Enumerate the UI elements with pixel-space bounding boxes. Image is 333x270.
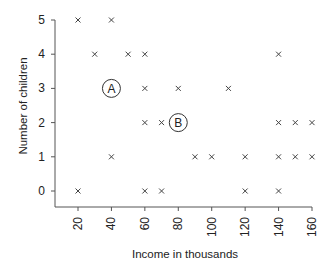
data-point-x-marker xyxy=(193,154,198,159)
x-tick-label: 80 xyxy=(171,217,185,231)
data-point-x-marker xyxy=(92,52,97,57)
data-point-x-marker xyxy=(226,86,231,91)
y-axis-title: Number of children xyxy=(17,57,29,154)
data-point-x-marker xyxy=(76,189,81,194)
x-tick-label: 20 xyxy=(71,217,85,231)
data-point-x-marker xyxy=(142,120,147,125)
data-point-x-marker xyxy=(142,189,147,194)
data-point-x-marker xyxy=(109,18,114,23)
y-tick-label: 4 xyxy=(38,47,45,61)
data-point-x-marker xyxy=(276,154,281,159)
data-point-x-marker xyxy=(142,52,147,57)
data-point-x-marker xyxy=(209,154,214,159)
x-tick-label: 120 xyxy=(238,217,252,237)
data-point-x-marker xyxy=(293,120,298,125)
data-point-x-marker xyxy=(310,154,315,159)
y-tick-label: 5 xyxy=(38,13,45,27)
svg-text:A: A xyxy=(107,82,115,96)
x-tick-label: 40 xyxy=(104,217,118,231)
data-point-x-marker xyxy=(159,120,164,125)
data-point-x-marker xyxy=(76,18,81,23)
data-point-x-marker xyxy=(276,189,281,194)
data-point-x-marker xyxy=(293,154,298,159)
data-point-x-marker xyxy=(176,86,181,91)
y-tick-label: 3 xyxy=(38,81,45,95)
annotations: AB xyxy=(102,79,187,131)
scatter-chart: 012345 20406080100120140160 AB Income in… xyxy=(0,0,333,270)
data-point-x-marker xyxy=(243,189,248,194)
x-axis-title: Income in thousands xyxy=(132,248,238,260)
y-axis: 012345 xyxy=(38,13,55,207)
data-point-x-marker xyxy=(142,86,147,91)
data-point-x-marker xyxy=(159,189,164,194)
y-tick-label: 0 xyxy=(38,184,45,198)
data-points xyxy=(76,18,315,194)
x-tick-label: 100 xyxy=(205,217,219,237)
x-axis: 20406080100120140160 xyxy=(55,207,319,237)
svg-text:B: B xyxy=(174,116,182,130)
x-tick-label: 140 xyxy=(272,217,286,237)
x-tick-label: 60 xyxy=(138,217,152,231)
y-tick-label: 2 xyxy=(38,116,45,130)
annotation-b: B xyxy=(169,114,187,132)
data-point-x-marker xyxy=(276,120,281,125)
data-point-x-marker xyxy=(243,154,248,159)
x-tick-label: 160 xyxy=(305,217,319,237)
data-point-x-marker xyxy=(109,154,114,159)
data-point-x-marker xyxy=(126,52,131,57)
data-point-x-marker xyxy=(276,52,281,57)
data-point-x-marker xyxy=(310,120,315,125)
annotation-a: A xyxy=(102,79,120,97)
y-tick-label: 1 xyxy=(38,150,45,164)
